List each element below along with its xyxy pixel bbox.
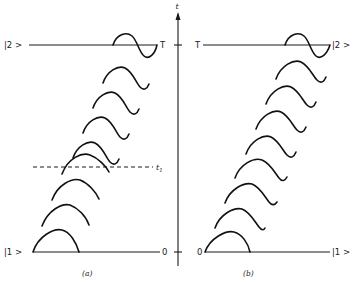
wave-segment — [73, 142, 119, 164]
wave-sequence-a — [33, 34, 157, 252]
wave-segment-top — [285, 34, 330, 57]
time-axis-arrow-icon — [176, 12, 181, 20]
wave-segment — [42, 205, 89, 226]
wave-segment — [215, 209, 265, 230]
time-zero-label: 0 — [197, 247, 202, 257]
level-2-label: |2 > — [4, 40, 22, 50]
wave-segment — [103, 67, 149, 89]
level-1-label: |1 > — [4, 247, 22, 257]
two-level-transition-diagram: |2 > T |1 > 0 t1 (a) t T — [0, 0, 359, 284]
wave-segment — [205, 232, 250, 252]
wave-segment — [93, 92, 139, 114]
wave-segment — [83, 117, 129, 139]
wave-segment — [52, 180, 99, 200]
time-T-label: T — [159, 40, 166, 50]
t1-label: t1 — [156, 163, 163, 173]
time-T-label: T — [194, 40, 201, 50]
level-2-label: |2 > — [332, 40, 350, 50]
time-axis-label: t — [176, 2, 180, 11]
wave-segment — [266, 86, 316, 107]
wave-segment — [62, 154, 109, 174]
time-zero-label: 0 — [162, 247, 167, 257]
wave-segment — [33, 230, 79, 252]
wave-segment — [225, 184, 277, 205]
wave-segment — [235, 159, 287, 180]
level-1-label: |1 > — [332, 247, 350, 257]
panel-b-caption: (b) — [243, 269, 254, 278]
wave-segment — [256, 111, 306, 132]
panel-a-caption: (a) — [82, 269, 92, 278]
panel-b: t T |2 > 0 |1 > (b) — [174, 2, 350, 278]
wave-sequence-b — [205, 34, 330, 252]
wave-segment-top — [113, 34, 157, 57]
panel-a: |2 > T |1 > 0 t1 (a) — [4, 34, 167, 278]
wave-segment — [246, 136, 296, 157]
wave-segment — [276, 61, 326, 82]
